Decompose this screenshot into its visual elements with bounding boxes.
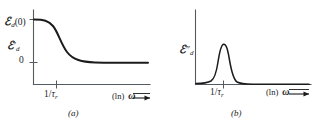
x-axis-arrow-head-a	[145, 96, 151, 101]
y-axis-top-label-a: ℰd(0)	[4, 12, 26, 29]
tau-subscript: r	[55, 93, 58, 101]
script-e-subscript: d	[190, 49, 194, 57]
script-e-symbol: ℰ	[4, 15, 11, 28]
curve-real-part-a	[34, 20, 148, 63]
y-tick-label-zero-a: 0	[19, 56, 24, 66]
tau-subscript: r	[221, 91, 224, 99]
x-axis-label-a: (ln) ω	[112, 86, 136, 102]
panel-caption-a: (a)	[68, 109, 79, 118]
x-axis-arrow-head-b	[304, 92, 310, 97]
omega-symbol: ω	[282, 86, 289, 97]
panel-b: ℰ″d 1/τr (ln) ω (b)	[159, 0, 318, 126]
log-scale-note: (ln)	[266, 87, 278, 97]
y-axis-name-label-a: ℰ′d	[7, 36, 19, 53]
x-axis-label-b: (ln) ω	[266, 82, 290, 98]
script-e-symbol: ℰ	[179, 43, 186, 56]
curve-loss-part-b	[196, 44, 309, 84]
y-axis-name-label-b: ℰ″d	[179, 40, 193, 57]
figure-debye-relaxation: ℰd(0) ℰ′d 0 1/τr (ln) ω (a)	[0, 0, 318, 126]
panel-a: ℰd(0) ℰ′d 0 1/τr (ln) ω (a)	[0, 0, 159, 126]
script-e-symbol: ℰ	[7, 39, 14, 52]
script-e-subscript: d	[16, 45, 20, 53]
panel-caption-b: (b)	[231, 109, 242, 118]
x-tick-label-tau-a: 1/τr	[44, 90, 58, 101]
x-tick-label-tau-b: 1/τr	[210, 88, 224, 99]
log-scale-note: (ln)	[112, 91, 124, 101]
script-e-argument: (0)	[15, 17, 26, 27]
omega-symbol: ω	[128, 90, 135, 101]
